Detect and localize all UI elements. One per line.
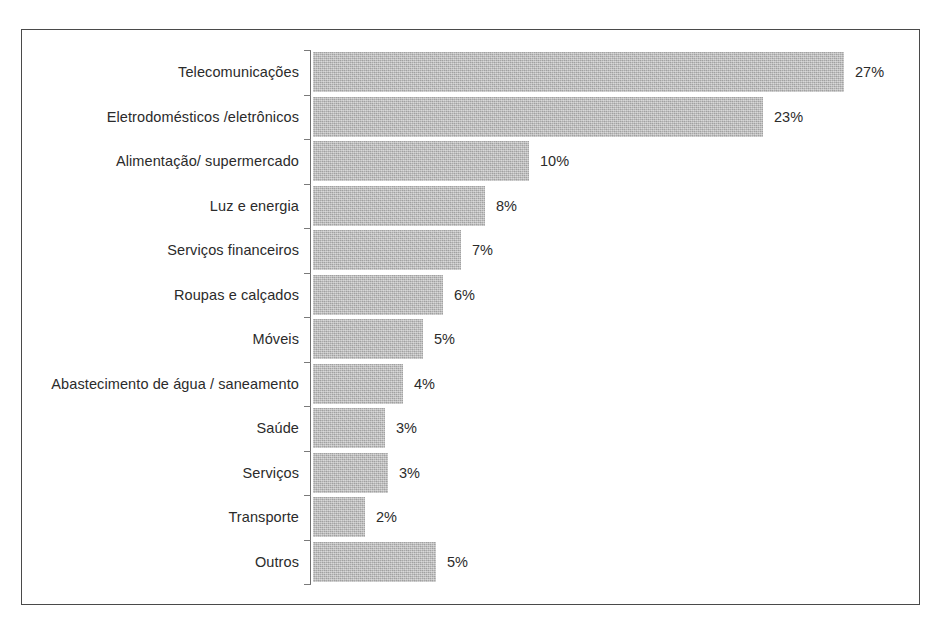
bar-row: Alimentação/ supermercado10% [22,139,919,184]
bar [313,408,385,448]
bar [313,275,443,315]
bar [313,52,844,92]
bar-row: Telecomunicações27% [22,50,919,95]
bar-row: Roupas e calçados6% [22,273,919,318]
bar [313,497,365,537]
category-label: Roupas e calçados [174,273,299,318]
chart-frame: Telecomunicações27%Eletrodomésticos /ele… [21,29,920,605]
bar-row: Abastecimento de água / saneamento4% [22,362,919,407]
bar-value-label: 3% [399,451,420,496]
bar-value-label: 8% [496,184,517,229]
bar-value-label: 3% [396,406,417,451]
bar [313,453,388,493]
bar-value-label: 7% [472,228,493,273]
bar [313,186,485,226]
bar [313,230,461,270]
bar-value-label: 10% [540,139,569,184]
bar-row: Saúde3% [22,406,919,451]
bar-row: Luz e energia8% [22,184,919,229]
cut-off-title-remnant [0,0,944,14]
category-label: Luz e energia [210,184,299,229]
bar-value-label: 6% [454,273,475,318]
bar-value-label: 5% [434,317,455,362]
bar-row: Transporte2% [22,495,919,540]
bar [313,319,423,359]
category-label: Móveis [252,317,299,362]
category-label: Eletrodomésticos /eletrônicos [107,95,299,140]
category-label: Serviços financeiros [167,228,299,273]
bar [313,542,436,582]
bar [313,141,529,181]
bar-value-label: 23% [774,95,803,140]
bar-value-label: 4% [414,362,435,407]
bar-value-label: 2% [376,495,397,540]
bar-row: Móveis5% [22,317,919,362]
category-label: Serviços [243,451,299,496]
axis-tick [304,584,311,585]
bar-row: Outros5% [22,540,919,585]
category-label: Saúde [257,406,299,451]
bar [313,97,763,137]
bar-value-label: 5% [447,540,468,585]
bar-row: Serviços financeiros7% [22,228,919,273]
category-label: Abastecimento de água / saneamento [51,362,299,407]
bar-row: Eletrodomésticos /eletrônicos23% [22,95,919,140]
category-label: Outros [255,540,299,585]
bar-chart-plot-area: Telecomunicações27%Eletrodomésticos /ele… [22,30,919,604]
category-label: Alimentação/ supermercado [116,139,299,184]
bar-value-label: 27% [855,50,884,95]
category-label: Telecomunicações [178,50,299,95]
category-label: Transporte [228,495,299,540]
bar-row: Serviços3% [22,451,919,496]
bar [313,364,403,404]
